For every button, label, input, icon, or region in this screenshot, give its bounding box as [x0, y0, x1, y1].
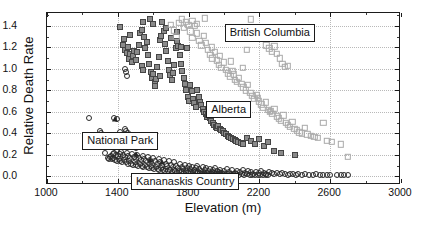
y-tick-label: 0.2	[2, 148, 17, 160]
axis-tick	[259, 179, 260, 183]
axis-tick	[47, 176, 51, 177]
axis-tick	[47, 155, 51, 156]
gridline-vertical	[118, 13, 119, 183]
y-tick-label: 0.0	[2, 169, 17, 181]
axis-tick	[366, 181, 367, 183]
axis-tick	[259, 13, 260, 17]
gridline-vertical	[330, 13, 331, 183]
axis-tick	[366, 13, 367, 15]
gridline-horizontal	[47, 155, 399, 156]
axis-tick	[395, 155, 399, 156]
axis-tick	[118, 179, 119, 183]
axis-tick	[397, 123, 399, 124]
axis-tick	[47, 47, 51, 48]
plot-area	[46, 12, 400, 184]
axis-tick	[395, 26, 399, 27]
axis-tick	[47, 90, 51, 91]
axis-tick	[397, 144, 399, 145]
axis-tick	[397, 15, 399, 16]
axis-tick	[330, 179, 331, 183]
axis-tick	[397, 80, 399, 81]
axis-tick	[397, 37, 399, 38]
gridline-vertical	[189, 13, 190, 183]
axis-tick	[189, 13, 190, 17]
axis-tick	[47, 123, 49, 124]
axis-tick	[82, 13, 83, 15]
annotation-label: British Columbia	[225, 24, 315, 42]
gridline-horizontal	[47, 69, 399, 70]
axis-tick	[47, 80, 49, 81]
axis-tick	[47, 15, 49, 16]
x-tick-label: 2600	[318, 186, 341, 198]
x-tick-label: 1000	[34, 186, 57, 198]
annotation-label: Kananaskis Country	[131, 173, 239, 191]
axis-tick	[395, 176, 399, 177]
axis-tick	[401, 13, 402, 17]
x-axis-title: Elevation (m)	[46, 200, 400, 215]
y-tick-label: 1.4	[2, 19, 17, 31]
axis-tick	[395, 90, 399, 91]
axis-tick	[395, 112, 399, 113]
gridlines	[47, 13, 399, 183]
y-tick-label: 0.8	[2, 83, 17, 95]
axis-tick	[47, 58, 49, 59]
y-tick-label: 1.0	[2, 62, 17, 74]
gridline-horizontal	[47, 26, 399, 27]
axis-tick	[118, 13, 119, 17]
axis-tick	[47, 179, 48, 183]
x-tick-label: 1400	[105, 186, 128, 198]
axis-tick	[47, 101, 49, 102]
axis-tick	[47, 133, 51, 134]
axis-tick	[47, 26, 51, 27]
axis-tick	[397, 58, 399, 59]
axis-tick	[47, 112, 51, 113]
gridline-horizontal	[47, 90, 399, 91]
annotation-label: Alberta	[206, 101, 251, 119]
axis-tick	[395, 69, 399, 70]
gridline-horizontal	[47, 47, 399, 48]
scatter-chart-figure: Relative Death Rate Elevation (m) 100014…	[0, 0, 421, 225]
y-axis-title: Relative Death Rate	[21, 16, 36, 176]
axis-tick	[401, 179, 402, 183]
axis-tick	[395, 133, 399, 134]
y-tick-label: 1.2	[2, 40, 17, 52]
axis-tick	[295, 13, 296, 15]
axis-tick	[47, 144, 49, 145]
axis-tick	[330, 13, 331, 17]
axis-tick	[47, 69, 51, 70]
axis-tick	[82, 181, 83, 183]
annotation-label: National Park	[82, 132, 158, 150]
x-tick-label: 2200	[247, 186, 270, 198]
axis-tick	[153, 13, 154, 15]
axis-tick	[397, 166, 399, 167]
y-tick-label: 0.4	[2, 126, 17, 138]
x-tick-label: 3000	[388, 186, 411, 198]
axis-tick	[295, 181, 296, 183]
axis-tick	[47, 37, 49, 38]
axis-tick	[397, 101, 399, 102]
y-tick-label: 0.6	[2, 105, 17, 117]
axis-tick	[224, 13, 225, 15]
axis-tick	[47, 166, 49, 167]
axis-tick	[395, 47, 399, 48]
